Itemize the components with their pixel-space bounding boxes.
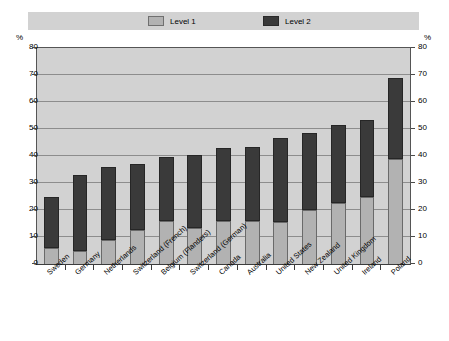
y-tick-mark-left-60 [32,101,36,102]
y-tick-label-right-50: 50 [418,124,440,132]
legend-swatch-level-2-icon [263,16,279,26]
legend-label-level-2: Level 2 [285,17,311,26]
bar-group [388,48,403,264]
bar-group [44,48,59,264]
y-tick-mark-right-10 [411,236,415,237]
bar-segment-level-2 [44,197,59,248]
y-axis-unit-left: % [16,33,23,42]
legend-item-level-1: Level 1 [148,15,196,27]
y-tick-label-right-40: 40 [418,151,440,159]
bar-segment-level-2 [302,133,317,210]
y-tick-mark-left-50 [32,128,36,129]
bar-group [130,48,145,264]
y-tick-label-right-80: 80 [418,43,440,51]
bars-layer [37,48,410,264]
y-tick-label-right-10: 10 [418,232,440,240]
y-tick-mark-left-30 [32,182,36,183]
bar-group [302,48,317,264]
y-tick-mark-right-80 [411,47,415,48]
y-tick-mark-right-50 [411,128,415,129]
y-tick-mark-right-70 [411,74,415,75]
y-tick-label-right-60: 60 [418,97,440,105]
y-tick-label-right-20: 20 [418,205,440,213]
bar-segment-level-1 [388,159,403,264]
bar-group [245,48,260,264]
bar-segment-level-2 [331,125,346,203]
bar-segment-level-2 [187,155,202,228]
y-tick-label-right-70: 70 [418,70,440,78]
bar-segment-level-2 [273,138,288,222]
y-tick-mark-left-80 [32,47,36,48]
bar-segment-level-2 [159,157,174,220]
y-tick-mark-right-60 [411,101,415,102]
bar-group [331,48,346,264]
y-tick-mark-left-10 [32,236,36,237]
y-tick-mark-left-0 [32,263,36,264]
chart-legend: Level 1 Level 2 [28,12,419,30]
y-axis-unit-right: % [424,33,431,42]
bar-group [273,48,288,264]
bar-group [73,48,88,264]
stacked-bar-chart: Level 1 Level 2 % % 01020304050607080 01… [0,0,449,341]
bar-segment-level-2 [245,147,260,221]
legend-label-level-1: Level 1 [170,17,196,26]
y-tick-mark-left-70 [32,74,36,75]
bar-segment-level-2 [73,175,88,251]
y-tick-mark-right-30 [411,182,415,183]
y-tick-mark-right-20 [411,209,415,210]
legend-swatch-level-1-icon [148,16,164,26]
bar-group [360,48,375,264]
y-tick-label-right-30: 30 [418,178,440,186]
bar-group [159,48,174,264]
y-tick-mark-left-20 [32,209,36,210]
bar-segment-level-2 [130,164,145,230]
bar-segment-level-1 [302,210,317,264]
bar-segment-level-2 [216,148,231,221]
bar-segment-level-2 [101,167,116,240]
bar-segment-level-2 [360,120,375,197]
x-axis-labels: SwedenGermanyNetherlandsSwitzerland (Fre… [36,270,411,341]
y-tick-mark-left-40 [32,155,36,156]
y-tick-label-right-0: 0 [418,259,440,267]
bar-segment-level-2 [388,78,403,159]
legend-item-level-2: Level 2 [263,15,311,27]
y-tick-mark-right-0 [411,263,415,264]
y-tick-mark-right-40 [411,155,415,156]
bar-group [101,48,116,264]
